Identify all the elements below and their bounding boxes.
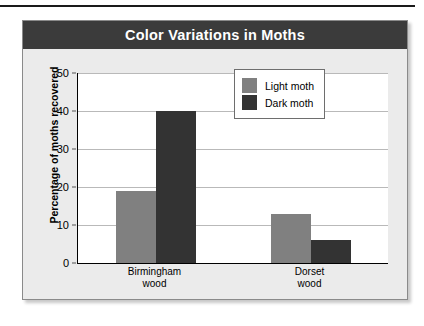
bars-layer — [78, 73, 388, 263]
page-top-rule — [0, 5, 415, 7]
y-axis-tick-label: 0 — [63, 257, 69, 269]
x-axis-labels: BirminghamwoodDorsetwood — [77, 266, 387, 290]
x-axis-category-line: wood — [255, 278, 365, 290]
x-axis-category-line: Dorset — [255, 266, 365, 278]
y-axis-tick-mark — [72, 149, 76, 150]
y-axis-tick-label: 20 — [57, 181, 69, 193]
y-axis-tick-label: 40 — [57, 105, 69, 117]
legend-swatch-icon — [242, 95, 257, 110]
chart-title-bar: Color Variations in Moths — [23, 21, 407, 49]
y-axis-tick-label: 30 — [57, 143, 69, 155]
y-axis-tick-mark — [72, 111, 76, 112]
bar-group — [116, 73, 196, 263]
chart-legend: Light mothDark moth — [234, 69, 325, 119]
bar — [271, 214, 311, 263]
bar — [156, 111, 196, 263]
chart-panel: Color Variations in Moths Percentage of … — [22, 20, 408, 300]
x-axis-category-line: wood — [100, 278, 210, 290]
y-axis-tick-mark — [72, 263, 76, 264]
legend-item: Light moth — [242, 78, 314, 93]
y-axis-tick-mark — [72, 225, 76, 226]
plot-wrapper: 01020304050 — [77, 73, 387, 263]
bar — [116, 191, 156, 263]
legend-item-label: Dark moth — [265, 97, 313, 109]
y-axis-tick-label: 50 — [57, 67, 69, 79]
legend-item: Dark moth — [242, 95, 314, 110]
y-axis-tick-mark — [72, 73, 76, 74]
legend-swatch-icon — [242, 78, 257, 93]
y-axis-tick-label: 10 — [57, 219, 69, 231]
bar — [311, 240, 351, 263]
chart-title: Color Variations in Moths — [125, 27, 305, 43]
x-axis-category-label: Dorsetwood — [255, 266, 365, 290]
y-axis-tick-mark — [72, 187, 76, 188]
x-axis-category-line: Birmingham — [100, 266, 210, 278]
legend-item-label: Light moth — [265, 80, 314, 92]
plot-area — [77, 73, 388, 264]
x-axis-category-label: Birminghamwood — [100, 266, 210, 290]
